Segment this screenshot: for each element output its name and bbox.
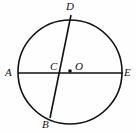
vertex-label-o: O [75,61,83,72]
vertex-label-e: E [124,67,131,78]
center-point-dot [68,69,72,73]
geometry-canvas [0,0,136,132]
vertex-label-a: A [5,67,12,78]
vertex-label-b: B [42,119,49,130]
vertex-label-d: D [66,1,74,12]
geometry-figure: A B C D E O [0,0,136,132]
vertex-label-c: C [50,61,57,72]
